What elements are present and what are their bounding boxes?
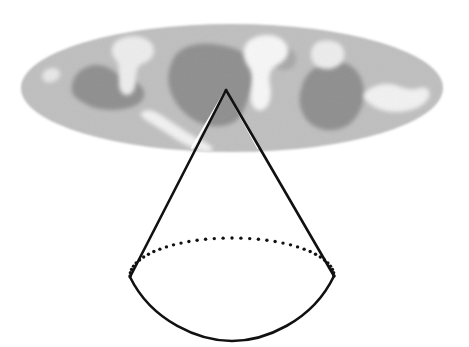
base-arc-dot: [187, 240, 190, 243]
base-arc-dot: [326, 261, 329, 264]
base-arc-dot: [239, 236, 242, 239]
base-arc-dot: [221, 236, 224, 239]
base-arc-dot: [172, 243, 175, 246]
base-arc-dot: [213, 237, 216, 240]
mottled-ellipse-disk: [21, 24, 443, 152]
figure-root: Cone intersecting a mottled elliptical d…: [0, 0, 469, 347]
base-arc-dot: [332, 274, 335, 277]
base-arc-dot: [332, 271, 335, 274]
base-arc-dot: [204, 238, 207, 241]
base-arc-dot: [308, 250, 311, 253]
base-arc-dot: [134, 261, 137, 264]
base-arc-dot: [165, 245, 168, 248]
base-arc-dot: [323, 258, 326, 261]
base-arc-dot: [329, 264, 332, 267]
base-arc-dot: [296, 245, 299, 248]
diagram-canvas: [0, 0, 469, 347]
base-arc-dot: [319, 255, 322, 258]
base-arc-dot: [273, 240, 276, 243]
base-arc-dot: [147, 253, 150, 256]
base-arc-dot: [138, 258, 141, 261]
base-arc-dot: [152, 250, 155, 253]
base-arc-dot: [230, 236, 233, 239]
base-arc-dot: [289, 243, 292, 246]
base-arc-dot: [128, 274, 131, 277]
base-arc-dot: [129, 271, 132, 274]
base-arc-dot: [179, 241, 182, 244]
base-arc-dot: [265, 239, 268, 242]
disk-blob-group: [21, 24, 443, 152]
base-arc-dot: [130, 268, 133, 271]
base-arc-dot: [158, 247, 161, 250]
base-arc-dot: [248, 237, 251, 240]
base-arc-dot: [132, 264, 135, 267]
base-arc-dot: [314, 253, 317, 256]
base-arc-dot: [142, 255, 145, 258]
base-arc-dot: [195, 239, 198, 242]
base-arc-dot: [331, 268, 334, 271]
base-arc-dot: [257, 238, 260, 241]
base-arc-dot: [281, 241, 284, 244]
halftone-grain-overlay: [21, 24, 443, 152]
base-arc-dot: [302, 247, 305, 250]
